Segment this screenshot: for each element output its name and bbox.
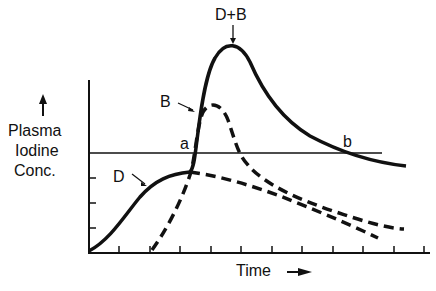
curve-d-decline <box>190 172 378 238</box>
y-label-line1: Plasma <box>8 122 61 140</box>
point-b-label: b <box>343 133 352 151</box>
d-curve-label: D <box>113 168 125 186</box>
curve-b <box>152 105 404 250</box>
peak-arrowhead-icon <box>230 38 236 44</box>
peak-label: D+B <box>215 6 247 24</box>
point-a-label: a <box>180 135 189 153</box>
curve-d <box>89 172 190 251</box>
x-label: Time <box>236 262 271 280</box>
d-pointer-icon <box>132 174 145 184</box>
y-label-line2: Iodine <box>15 142 59 160</box>
y-label-line3: Conc. <box>14 162 56 180</box>
chart-plot <box>0 0 436 291</box>
y-ticks <box>89 178 96 228</box>
b-curve-label: B <box>160 93 171 111</box>
x-ticks <box>119 246 424 253</box>
